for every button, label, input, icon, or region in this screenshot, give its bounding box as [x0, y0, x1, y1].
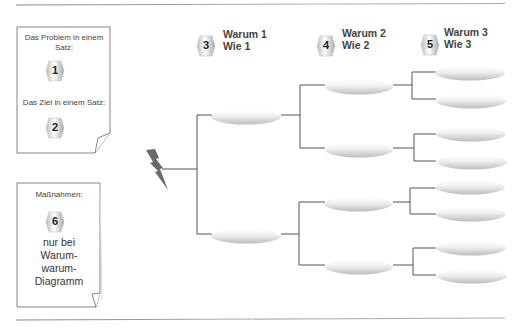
why2-node[interactable] — [325, 260, 393, 275]
header-line-why: Warum 1 — [223, 28, 267, 40]
tree-connectors — [162, 72, 436, 275]
why3-node[interactable] — [436, 207, 506, 222]
header-warum-3: Warum 3 Wie 3 — [444, 26, 488, 50]
why1-node[interactable] — [211, 110, 281, 125]
problem-badge-number: 1 — [46, 64, 64, 76]
goal-badge-number: 2 — [46, 121, 64, 133]
why3-node[interactable] — [436, 94, 506, 109]
measures-badge-number: 6 — [46, 215, 64, 227]
measures-title: Maßnahmen: — [17, 190, 101, 200]
why3-node[interactable] — [436, 127, 506, 142]
measures-note-line: Warum- — [17, 249, 101, 262]
goal-label: Das Ziel in einem Satz: — [17, 98, 111, 108]
why3-node[interactable] — [436, 241, 506, 256]
measures-note-line: nur bei — [17, 236, 101, 249]
why2-node[interactable] — [324, 197, 392, 212]
measures-note-line: Diagramm — [17, 275, 101, 288]
top-rule — [16, 4, 505, 6]
header-line-how: Wie 1 — [223, 40, 267, 52]
header-line-why: Warum 2 — [342, 27, 386, 39]
header-warum-1: Warum 1 Wie 1 — [223, 28, 267, 52]
measures-note-line: warum- — [17, 262, 101, 275]
why3-node[interactable] — [437, 155, 507, 170]
header-line-why: Warum 3 — [444, 26, 488, 38]
header-3-badge-number: 3 — [197, 39, 215, 51]
measures-note: nur bei Warum- warum- Diagramm — [17, 236, 101, 288]
problem-label: Das Problem in einem Satz: — [19, 33, 109, 53]
bottom-rule — [16, 318, 505, 320]
why2-node[interactable] — [325, 80, 393, 95]
why3-node[interactable] — [435, 66, 505, 81]
header-5-badge-number: 5 — [421, 38, 439, 50]
header-4-badge-number: 4 — [317, 39, 335, 51]
header-warum-2: Warum 2 Wie 2 — [342, 27, 386, 51]
why2-node[interactable] — [325, 143, 393, 158]
header-line-how: Wie 2 — [342, 39, 386, 51]
why1-node[interactable] — [211, 229, 281, 244]
header-line-how: Wie 3 — [444, 38, 488, 50]
why3-node[interactable] — [437, 269, 507, 284]
why3-node[interactable] — [435, 180, 505, 195]
